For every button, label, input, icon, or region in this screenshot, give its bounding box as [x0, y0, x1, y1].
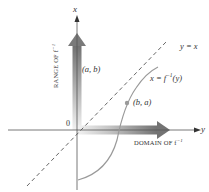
identity-line-label: y = x [180, 41, 198, 51]
origin-label: 0 [66, 119, 70, 128]
diagram-canvas [0, 0, 209, 192]
inverse-function-curve [78, 67, 158, 180]
vertical-axis-label: x [73, 4, 77, 14]
point-ba-marker [125, 101, 129, 105]
horizontal-axis-label: y [201, 124, 205, 134]
curve-label: x = f−1(y) [150, 72, 182, 83]
range-of-f-inverse-label: RANGE OF f−1 [51, 44, 59, 88]
point-ab-label: (a, b) [82, 64, 100, 74]
point-ba-label: (b, a) [133, 97, 151, 107]
domain-of-f-inverse-label: DOMAIN OF f−1 [134, 138, 183, 146]
